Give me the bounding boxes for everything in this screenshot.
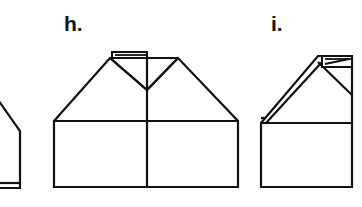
- figure-canvas: [0, 0, 362, 207]
- figure-label-i: i.: [271, 13, 283, 34]
- figure-label-h: h.: [64, 13, 83, 34]
